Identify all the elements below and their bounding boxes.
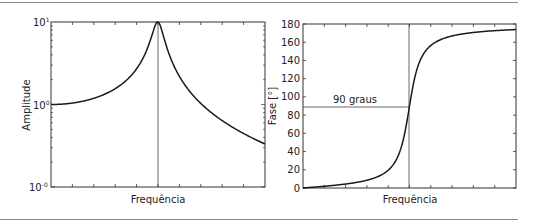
ytick-label: 0: [294, 183, 300, 194]
phase-ylabel: Fase [°]: [267, 87, 278, 125]
ytick-label: 60: [287, 128, 300, 139]
amplitude-plot: 101 100 10-0 Frequência Amplitude: [21, 16, 265, 205]
ytick-10e0: 100: [33, 99, 50, 111]
ytick-label: 80: [287, 110, 300, 121]
ytick-label: 20: [287, 164, 300, 175]
figure: 101 100 10-0 Frequência Amplitude 020406…: [0, 0, 536, 222]
ytick-label: 140: [281, 55, 300, 66]
ninety-degree-label: 90 graus: [333, 94, 377, 105]
ytick-label: 120: [281, 73, 300, 84]
phase-ytick-labels: 020406080100120140160180: [281, 19, 300, 194]
ytick-label: 180: [281, 19, 300, 30]
ytick-label: 40: [287, 146, 300, 157]
amplitude-ylabel: Amplitude: [21, 79, 32, 130]
amplitude-xlabel: Frequência: [131, 194, 186, 205]
phase-curve: [303, 30, 516, 188]
ytick-label: 100: [281, 91, 300, 102]
ytick-label: 160: [281, 37, 300, 48]
phase-xlabel: Frequência: [383, 194, 438, 205]
ytick-10e-1: 10-0: [29, 181, 48, 193]
phase-plot: 020406080100120140160180 90 graus Frequê…: [267, 19, 516, 206]
ytick-10e1: 101: [33, 16, 50, 28]
